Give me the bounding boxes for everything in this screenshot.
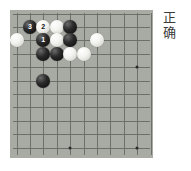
star-point xyxy=(136,146,139,149)
stone-black[interactable] xyxy=(50,47,64,61)
grid-line-horizontal xyxy=(13,81,150,82)
stone-black[interactable] xyxy=(63,33,77,47)
stone-white[interactable] xyxy=(10,33,24,47)
caption-line-1: 正 xyxy=(163,10,187,25)
grid-line-horizontal xyxy=(13,14,150,15)
stone-white-2[interactable]: 2 xyxy=(36,20,50,34)
stone-white[interactable] xyxy=(77,47,91,61)
grid-line-horizontal xyxy=(13,94,150,95)
stone-black-1[interactable]: 1 xyxy=(36,33,50,47)
stone-black-3[interactable]: 3 xyxy=(23,20,37,34)
grid-line-horizontal xyxy=(13,107,150,108)
stone-move-number: 3 xyxy=(28,23,32,30)
stone-move-number: 1 xyxy=(41,36,45,43)
grid-line-horizontal xyxy=(13,67,150,68)
stone-black[interactable] xyxy=(36,74,50,88)
stone-black[interactable] xyxy=(36,47,50,61)
stone-black[interactable] xyxy=(63,20,77,34)
caption-line-2: 确 xyxy=(163,25,187,40)
grid-line-horizontal xyxy=(13,40,150,41)
go-board-grid: 321 xyxy=(10,10,153,158)
stone-white[interactable] xyxy=(50,33,64,47)
stone-white[interactable] xyxy=(50,20,64,34)
grid-line-horizontal xyxy=(13,121,150,122)
grid-line-horizontal xyxy=(13,134,150,135)
stone-white[interactable] xyxy=(63,47,77,61)
stone-move-number: 2 xyxy=(41,23,45,30)
star-point xyxy=(69,146,72,149)
go-board[interactable]: 321 xyxy=(10,10,153,158)
go-problem-figure: 321 正 确 xyxy=(0,0,191,171)
grid-line-vertical xyxy=(151,13,152,155)
caption-label: 正 确 xyxy=(163,10,187,40)
star-point xyxy=(136,66,139,69)
stone-white[interactable] xyxy=(90,33,104,47)
grid-line-horizontal xyxy=(13,148,150,149)
